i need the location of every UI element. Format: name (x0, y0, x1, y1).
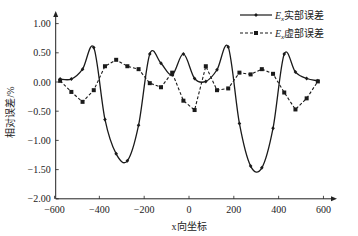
x-axis-title: x向坐标 (172, 220, 207, 232)
square-marker-icon (92, 88, 96, 92)
y-tick-label: −0.50 (28, 106, 51, 117)
y-tick-label: 0.00 (33, 77, 51, 88)
legend-label: Ex实部误差 (274, 9, 324, 23)
y-tick-label: −1.00 (28, 135, 51, 146)
square-marker-icon (260, 67, 264, 71)
x-axis-arrow-icon (331, 196, 337, 201)
y-tick-label: −2.00 (28, 193, 51, 204)
line-chart: 1.000.500.00−0.50−1.00−1.50−2.00−600−400… (0, 0, 358, 236)
square-marker-icon (193, 108, 197, 112)
square-marker-icon (305, 96, 309, 100)
diamond-marker-icon (103, 117, 107, 121)
square-marker-icon (204, 64, 208, 68)
square-marker-icon (69, 90, 73, 94)
square-marker-icon (181, 99, 185, 103)
legend-item-real: Ex实部误差 (240, 9, 324, 23)
square-marker-icon (114, 58, 118, 62)
x-tick-label: 600 (316, 204, 331, 215)
square-marker-icon (254, 31, 258, 35)
legend-label: Ex虚部误差 (274, 27, 324, 41)
diamond-marker-icon (70, 77, 74, 81)
diamond-marker-icon (204, 79, 208, 83)
square-marker-icon (58, 79, 62, 83)
square-marker-icon (148, 81, 152, 85)
x-tick-label: −600 (44, 204, 65, 215)
square-marker-icon (316, 79, 320, 83)
legend: Ex实部误差Ex虚部误差 (240, 9, 324, 41)
square-marker-icon (226, 86, 230, 90)
square-marker-icon (249, 72, 253, 76)
diamond-marker-icon (238, 121, 242, 125)
square-marker-icon (103, 64, 107, 68)
x-tick-label: 400 (271, 204, 286, 215)
square-marker-icon (170, 71, 174, 75)
x-tick-label: 200 (226, 204, 241, 215)
y-tick-label: 1.00 (33, 18, 51, 29)
diamond-marker-icon (254, 13, 258, 17)
y-axis-title: 相对误差/% (4, 86, 16, 137)
series-line (60, 45, 318, 172)
square-marker-icon (125, 64, 129, 68)
square-marker-icon (137, 67, 141, 71)
square-marker-icon (215, 88, 219, 92)
x-tick-label: −200 (134, 204, 155, 215)
square-marker-icon (159, 85, 163, 89)
x-tick-label: −400 (89, 204, 110, 215)
square-marker-icon (271, 72, 275, 76)
diamond-marker-icon (137, 123, 141, 127)
square-marker-icon (237, 71, 241, 75)
square-marker-icon (282, 91, 286, 95)
y-tick-label: −1.50 (28, 164, 51, 175)
x-tick-label: 0 (187, 204, 192, 215)
square-marker-icon (81, 100, 85, 104)
square-marker-icon (293, 107, 297, 111)
diamond-marker-icon (305, 76, 309, 80)
series-real-part (58, 45, 319, 172)
axes: 1.000.500.00−0.50−1.00−1.50−2.00−600−400… (28, 11, 337, 215)
y-axis-arrow-icon (53, 11, 58, 17)
legend-item-imag: Ex虚部误差 (240, 27, 324, 41)
diamond-marker-icon (271, 126, 275, 130)
plot-area (58, 45, 320, 172)
y-tick-label: 0.50 (33, 47, 51, 58)
